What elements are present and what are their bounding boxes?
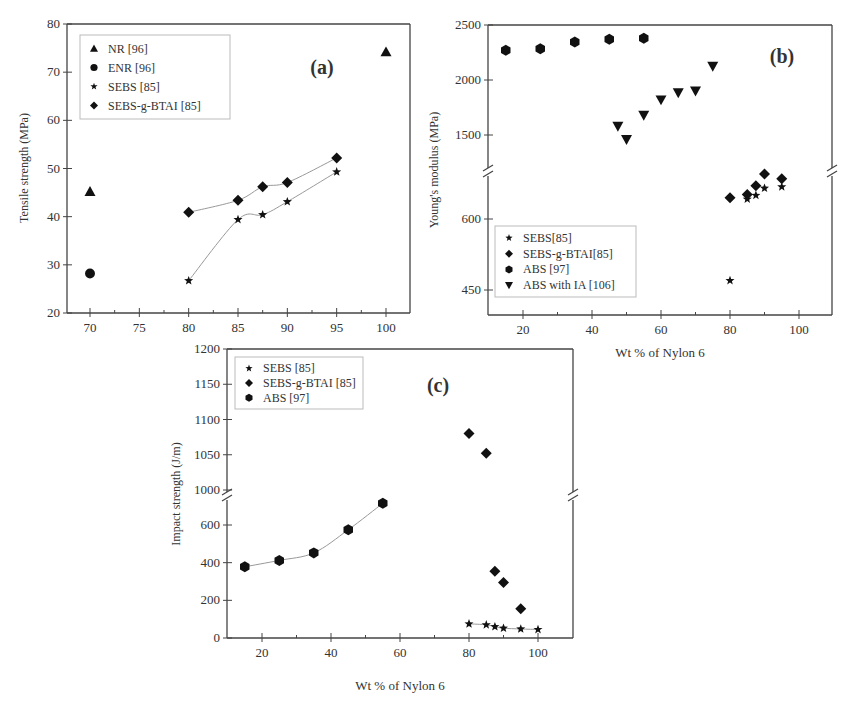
y-tick-label: 80 (47, 16, 60, 31)
panel-label: (c) (427, 374, 449, 397)
triangle-down-marker (656, 95, 667, 105)
triangle-down-marker (690, 87, 701, 97)
y-tick-label: 50 (47, 161, 60, 176)
diamond-marker (233, 195, 244, 206)
star-marker (499, 624, 508, 633)
star-marker (751, 191, 760, 200)
triangle-down-marker (621, 135, 632, 145)
y-axis-label: Impact strength (J/m) (169, 442, 183, 545)
x-tick-label: 80 (182, 320, 195, 335)
legend-entry-label: ENR [96] (108, 61, 155, 75)
series-sebs-g-btai-85- (725, 169, 788, 204)
x-tick-label: 80 (463, 645, 476, 660)
hexagon-marker (570, 37, 580, 48)
legend: SEBS [85]SEBS-g-BTAI [85]ABS [97] (235, 357, 363, 409)
x-tick-label: 85 (232, 320, 245, 335)
legend-entry-label: SEBS-g-BTAI[85] (523, 247, 613, 261)
diamond-marker (331, 152, 342, 163)
legend-entry-label: NR [96] (108, 42, 148, 56)
diamond-marker (776, 173, 787, 184)
y-tick-label: 20 (47, 305, 60, 320)
series-abs-97- (501, 33, 649, 56)
triangle-up-marker (85, 186, 96, 196)
diamond-marker (257, 181, 268, 192)
chart-panel-b: 20406080100450600150020002500Young's mod… (427, 17, 837, 360)
hexagon-marker (378, 498, 388, 509)
star-marker (760, 184, 769, 193)
y-axis-label: Young's modulus (MPa) (427, 112, 441, 228)
x-axis-label: Wt % of Nylon 6 (355, 678, 445, 693)
diamond-marker (464, 428, 475, 439)
y-tick-label: 1100 (194, 412, 220, 427)
chart-panel-a: 70758085909510020304050607080Tensile str… (17, 16, 410, 335)
legend-entry-label: SEBS [85] (263, 361, 315, 375)
y-tick-label: 1500 (455, 127, 481, 142)
star-marker (534, 625, 543, 634)
hexagon-marker (536, 43, 546, 54)
x-tick-label: 40 (586, 322, 599, 337)
x-tick-label: 100 (528, 645, 548, 660)
x-tick-label: 60 (655, 322, 668, 337)
triangle-down-marker (638, 111, 649, 121)
y-tick-label: 600 (201, 517, 221, 532)
series-abs-with-ia-106- (612, 62, 718, 145)
y-tick-label: 0 (214, 630, 221, 645)
hexagon-marker (605, 34, 615, 45)
y-tick-label: 1050 (194, 447, 220, 462)
x-tick-label: 20 (517, 322, 530, 337)
y-tick-label: 400 (201, 555, 221, 570)
legend-entry-label: ABS [97] (263, 391, 309, 405)
series-sebs-g-btai-85- (464, 428, 527, 614)
star-marker (490, 622, 499, 631)
diamond-marker (725, 192, 736, 203)
panel-label: (a) (310, 56, 333, 79)
diamond-marker (489, 566, 500, 577)
legend: NR [96]ENR [96]SEBS [85]SEBS-g-BTAI [85] (80, 35, 230, 119)
x-axis-label: Wt % of Nylon 6 (615, 345, 705, 360)
x-tick-label: 20 (256, 645, 269, 660)
legend-entry-label: SEBS[85] (523, 231, 572, 245)
x-tick-label: 60 (394, 645, 407, 660)
star-marker (283, 197, 292, 206)
diamond-marker (515, 603, 526, 614)
legend-entry-label: SEBS-g-BTAI [85] (108, 99, 201, 113)
y-tick-label: 2000 (455, 72, 481, 87)
star-marker (258, 210, 267, 219)
x-tick-label: 80 (724, 322, 737, 337)
circle-marker (90, 64, 97, 71)
x-tick-label: 100 (376, 320, 396, 335)
x-tick-label: 40 (325, 645, 338, 660)
y-tick-label: 2500 (455, 17, 481, 32)
y-tick-label: 30 (47, 257, 60, 272)
legend: SEBS[85]SEBS-g-BTAI[85]ABS [97]ABS with … (495, 226, 636, 297)
x-tick-label: 100 (789, 322, 809, 337)
y-tick-label: 200 (201, 592, 221, 607)
diamond-marker (750, 180, 761, 191)
series-sebs-g-btai-85- (183, 152, 342, 217)
legend-entry-label: SEBS-g-BTAI [85] (263, 376, 356, 390)
diamond-marker (759, 169, 770, 180)
star-marker (516, 624, 525, 633)
series-sebs-85- (465, 619, 543, 633)
legend-entry-label: SEBS [85] (108, 80, 160, 94)
hexagon-marker (344, 524, 354, 535)
y-tick-label: 1000 (194, 482, 220, 497)
legend-entry-label: ABS [97] (523, 262, 569, 276)
diamond-marker (183, 207, 194, 218)
y-tick-label: 450 (462, 282, 482, 297)
y-tick-label: 40 (47, 209, 60, 224)
diamond-marker (498, 577, 509, 588)
chart-panel-c: 2040608010002004006001000105011001150120… (169, 341, 578, 693)
series-abs-97- (240, 498, 388, 573)
y-tick-label: 1200 (194, 341, 220, 356)
legend-entry-label: ABS with IA [106] (523, 278, 615, 292)
x-tick-label: 75 (133, 320, 146, 335)
y-tick-label: 600 (462, 211, 482, 226)
circle-marker (85, 269, 95, 279)
x-tick-label: 90 (281, 320, 294, 335)
y-axis-label: Tensile strength (MPa) (17, 113, 31, 223)
x-tick-label: 70 (84, 320, 97, 335)
y-tick-label: 60 (47, 112, 60, 127)
triangle-up-marker (381, 46, 392, 56)
star-marker (726, 276, 735, 285)
